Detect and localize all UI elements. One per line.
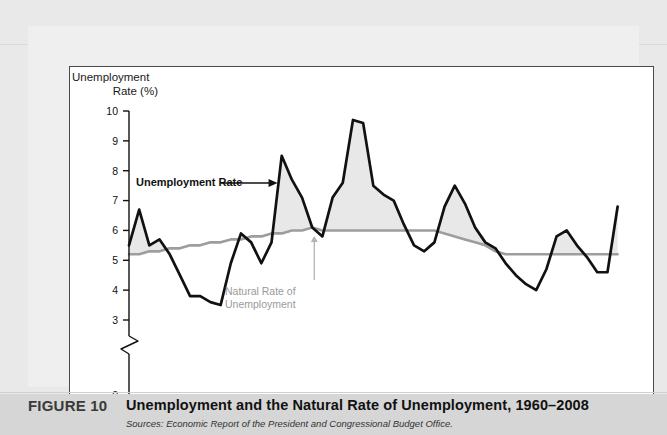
figure-source: Sources: Economic Report of the Presiden… <box>126 418 453 429</box>
unemployment-chart: 0345678910196019651970197519801985199019… <box>70 67 655 409</box>
annotation-natural-rate-line2: Unemployment <box>225 298 296 310</box>
figure-page: 0345678910196019651970197519801985199019… <box>0 0 667 435</box>
y-tick-label: 10 <box>106 105 118 117</box>
figure-area: 0345678910196019651970197519801985199019… <box>28 26 639 387</box>
y-axis-title: Unemployment Rate (%) <box>72 71 192 98</box>
series-shaded-area <box>273 156 313 234</box>
annotation-unemployment-rate: Unemployment Rate <box>136 176 242 188</box>
y-tick-label: 3 <box>112 314 118 326</box>
y-axis-title-line2: Rate (%) <box>72 85 158 99</box>
figure-number: FIGURE 10 <box>28 397 107 414</box>
y-tick-label: 9 <box>112 135 118 147</box>
y-axis-title-line1: Unemployment <box>72 71 149 83</box>
page-rule-bottom <box>0 392 667 393</box>
natural-rate-leader-arrow <box>311 236 318 242</box>
figure-title: Unemployment and the Natural Rate of Une… <box>126 397 589 413</box>
annotation-natural-rate-line1: Natural Rate of <box>225 285 296 297</box>
annotation-arrow-head <box>269 179 278 187</box>
chart-panel: 0345678910196019651970197519801985199019… <box>69 66 654 408</box>
series-shaded-area <box>438 186 498 252</box>
annotation-unemployment-rate-label: Unemployment Rate <box>136 176 242 188</box>
y-tick-label: 8 <box>112 165 118 177</box>
series-shaded-area <box>129 210 166 255</box>
y-tick-label: 5 <box>112 254 118 266</box>
y-tick-label: 6 <box>112 224 118 236</box>
annotation-natural-rate: Natural Rate of Unemployment <box>225 285 296 310</box>
y-tick-label: 4 <box>112 284 118 296</box>
y-tick-label: 7 <box>112 194 118 206</box>
y-axis-break-symbol <box>121 336 138 354</box>
natural-rate-line <box>129 227 618 254</box>
figure-caption: FIGURE 10 Unemployment and the Natural R… <box>0 394 667 435</box>
